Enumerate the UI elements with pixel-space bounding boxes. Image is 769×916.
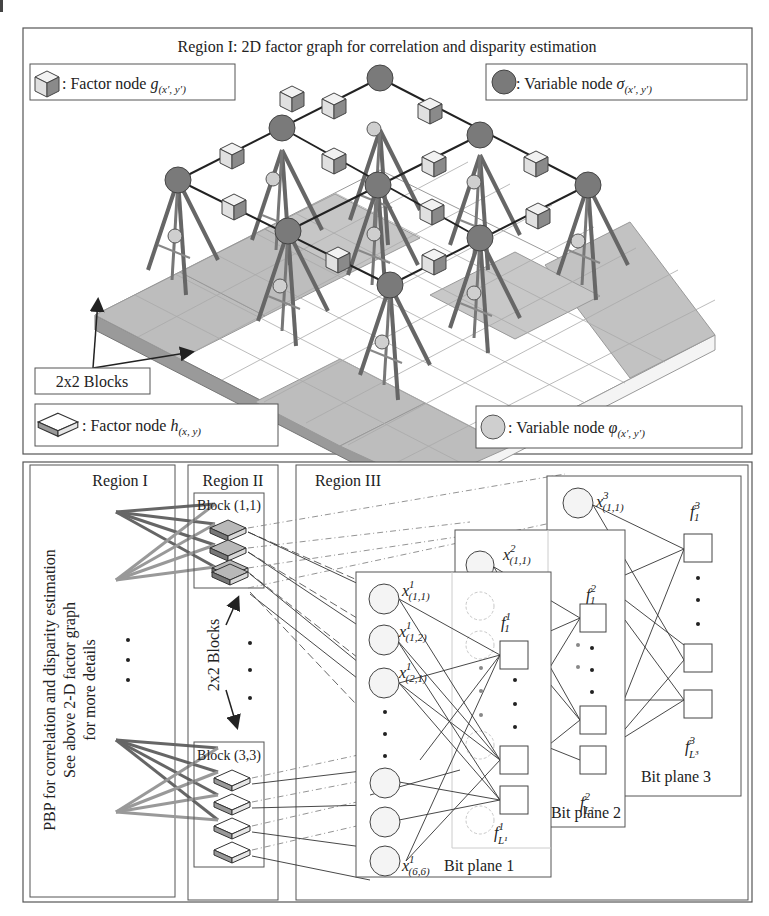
- region-3-title: Region III: [315, 472, 381, 490]
- legend-variable-sigma: : Variable node σ(x′, y′): [486, 64, 747, 100]
- factor-graph-figure: Region I: 2D factor graph for correlatio…: [0, 0, 769, 916]
- page-edge-mark: [0, 0, 3, 12]
- node-label-f1-3: f31: [690, 499, 700, 523]
- region-1-caption-line2: See above 2-D factor graph: [61, 602, 79, 778]
- factor-fL-3-a: [684, 644, 712, 672]
- factor-f1-2: [580, 604, 606, 632]
- factor-fL-2-a: [580, 706, 606, 734]
- factor-fL-3: [684, 690, 712, 718]
- factor-fL-2: [580, 746, 606, 774]
- factor-f1-1: [500, 641, 528, 669]
- variable-x21-1: [369, 668, 399, 698]
- bit-plane-1-label: Bit plane 1: [444, 857, 514, 875]
- variable-x66-1: [370, 846, 400, 876]
- top-panel: Region I: 2D factor graph for correlatio…: [23, 28, 752, 500]
- legend-factor-h: : Factor node h(x, y): [35, 404, 278, 446]
- block-bottom-label: Block (3,3): [197, 748, 261, 764]
- block-1-1-h-nodes: [210, 520, 248, 585]
- dark-circle-icon: [492, 70, 516, 94]
- bit-plane-3-label: Bit plane 3: [641, 768, 711, 786]
- region-2-title: Region II: [203, 472, 264, 490]
- bit-plane-2-label: Bit plane 2: [551, 804, 621, 822]
- region-1-caption-line3: for more details: [81, 639, 98, 740]
- variable-x11-1: [369, 584, 399, 614]
- block-top-label: Block (1,1): [197, 498, 261, 514]
- variable-x12-1: [369, 625, 399, 655]
- bottom-panel: Region I PBP for correlation and dispari…: [23, 462, 752, 902]
- region-2-blocks-label: 2x2 Blocks: [205, 619, 222, 691]
- bit-plane-1: x1(1,1) x1(1,2) x1(2,1) f11 f1L¹ x1(6,6)…: [356, 572, 551, 878]
- legend-factor-g: : Factor node g(x′, y′): [30, 64, 235, 100]
- node-label-f1-2: f21: [586, 582, 596, 606]
- factor-f1-3: [684, 534, 712, 562]
- top-panel-title: Region I: 2D factor graph for correlatio…: [178, 38, 597, 56]
- legend-variable-phi: : Variable node φ(x′, y′): [476, 406, 742, 448]
- factor-fL-1-a: [500, 746, 528, 774]
- node-label-f1-1: f11: [501, 610, 510, 634]
- region-1-caption-line1: PBP for correlation and disparity estima…: [41, 549, 59, 831]
- cube-icon: [35, 71, 59, 97]
- factor-fL-1: [500, 786, 528, 814]
- region-1-title: Region I: [92, 472, 148, 490]
- light-circle-icon: [481, 415, 505, 439]
- blocks-label: 2x2 Blocks: [56, 373, 128, 390]
